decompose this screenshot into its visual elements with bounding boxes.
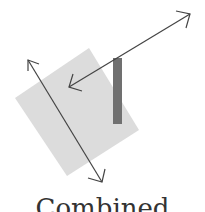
diagram-canvas <box>0 0 205 212</box>
dark-bar <box>113 58 122 124</box>
caption: Combined <box>0 193 205 212</box>
